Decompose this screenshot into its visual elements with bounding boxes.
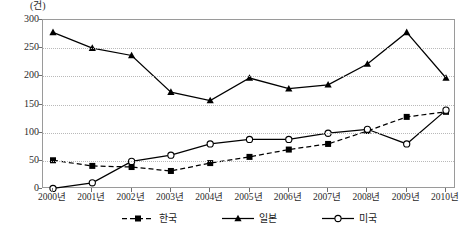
y-axis-unit-label: (건) (30, 0, 46, 12)
x-axis-tick-label: 2009년 (392, 190, 420, 204)
x-axis-tick-label: 2007년 (313, 190, 341, 204)
x-axis-tick-mark (91, 188, 92, 192)
x-axis-tick-mark (288, 188, 289, 192)
x-axis-tick-mark (366, 188, 367, 192)
x-axis-tick-mark (445, 188, 446, 192)
plot-area (42, 19, 455, 188)
y-axis-tick-mark (38, 188, 42, 189)
data-point (286, 136, 292, 142)
data-point (49, 29, 56, 36)
gridline (43, 161, 454, 162)
gridline (43, 76, 454, 77)
legend-item-일본: 일본 (221, 213, 277, 224)
y-axis-tick-label: 0 (3, 183, 39, 193)
x-axis-tick-mark (327, 188, 328, 192)
series-line (53, 110, 446, 188)
y-axis: 050100150200250300 (0, 19, 39, 188)
x-axis: 2000년2001년2002년2003년2004년2005년2006년2007년… (42, 190, 455, 206)
data-point (168, 168, 174, 174)
x-axis-tick-mark (209, 188, 210, 192)
x-axis-tick-label: 2010년 (431, 190, 459, 204)
data-point (286, 147, 292, 153)
data-point (325, 81, 332, 88)
x-axis-tick-label: 2005년 (235, 190, 263, 204)
x-axis-tick-mark (249, 188, 250, 192)
data-point (246, 74, 253, 81)
line-chart: (건) 050100150200250300 2000년2001년2002년20… (0, 0, 462, 232)
data-point (207, 141, 213, 147)
gridline (43, 48, 454, 49)
legend-marker-icon (221, 213, 255, 224)
gridline (43, 105, 454, 106)
data-point (168, 152, 174, 158)
x-axis-tick-label: 2002년 (117, 190, 145, 204)
y-axis-tick-label: 300 (3, 14, 39, 24)
x-axis-tick-label: 2001년 (77, 190, 105, 204)
legend-label: 일본 (259, 213, 277, 224)
y-axis-tick-label: 200 (3, 70, 39, 80)
x-axis-tick-label: 2008년 (352, 190, 380, 204)
data-point (404, 141, 410, 147)
x-axis-tick-label: 2003년 (156, 190, 184, 204)
data-point (247, 154, 253, 160)
legend-marker-icon (321, 213, 355, 224)
series-일본 (49, 29, 449, 104)
y-axis-tick-label: 150 (3, 99, 39, 109)
y-axis-tick-label: 250 (3, 42, 39, 52)
chart-legend: 한국일본미국 (42, 208, 455, 228)
x-axis-tick-mark (131, 188, 132, 192)
data-point (89, 163, 95, 169)
series-미국 (50, 107, 449, 192)
data-point (246, 136, 252, 142)
gridline (43, 133, 454, 134)
legend-marker-icon (121, 213, 155, 224)
data-point (403, 29, 410, 36)
legend-label: 미국 (359, 213, 377, 224)
legend-label: 한국 (159, 213, 177, 224)
data-point (443, 107, 449, 113)
data-point (89, 180, 95, 186)
x-axis-tick-mark (170, 188, 171, 192)
data-point (325, 141, 331, 147)
legend-item-미국: 미국 (321, 213, 377, 224)
x-axis-tick-mark (52, 188, 53, 192)
x-axis-tick-label: 2004년 (195, 190, 223, 204)
y-axis-tick-label: 100 (3, 127, 39, 137)
x-axis-tick-label: 2000년 (38, 190, 66, 204)
legend-item-한국: 한국 (121, 213, 177, 224)
series-line (53, 32, 446, 100)
y-axis-tick-label: 50 (3, 155, 39, 165)
x-axis-tick-mark (406, 188, 407, 192)
data-point (364, 126, 370, 132)
data-point (404, 114, 410, 120)
x-axis-tick-label: 2006년 (274, 190, 302, 204)
